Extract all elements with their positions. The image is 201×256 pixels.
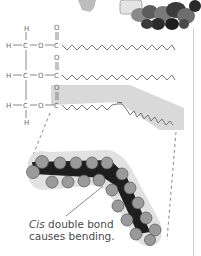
svg-text:C: C xyxy=(54,72,59,80)
svg-text:O: O xyxy=(38,42,44,50)
page-divider-rule xyxy=(193,28,194,256)
svg-text:O: O xyxy=(54,84,60,92)
arrow-graphic xyxy=(78,0,96,12)
svg-text:C: C xyxy=(23,72,28,80)
svg-text:H: H xyxy=(24,119,29,127)
glycerol-backbone xyxy=(13,32,58,118)
svg-text:C: C xyxy=(54,42,59,50)
olive-bowl-photo xyxy=(120,0,201,30)
caption-leader-line xyxy=(66,186,103,216)
svg-text:O: O xyxy=(38,102,44,110)
saturated-chain-1 xyxy=(62,45,175,50)
caption-line-2: causes bending. xyxy=(29,230,115,242)
svg-text:C: C xyxy=(54,102,59,110)
caption-line-1-rest: double bond xyxy=(45,218,114,230)
svg-text:C: C xyxy=(23,42,28,50)
figure-caption: Cis double bond causes bending. xyxy=(29,218,115,242)
svg-text:H: H xyxy=(6,102,11,110)
svg-text:H: H xyxy=(6,72,11,80)
svg-text:O: O xyxy=(38,72,44,80)
atom-labels: H HCOCO HCOCO HCOCO H xyxy=(6,24,60,127)
caption-italic-cis: Cis xyxy=(29,218,45,230)
svg-text:H: H xyxy=(24,25,29,33)
svg-text:H: H xyxy=(6,42,11,50)
shaded-unsaturated-band xyxy=(51,85,184,130)
svg-text:C: C xyxy=(23,102,28,110)
svg-text:O: O xyxy=(54,54,60,62)
svg-text:O: O xyxy=(54,24,60,32)
saturated-chain-2 xyxy=(62,75,175,80)
caption-line-1: Cis double bond xyxy=(29,218,115,230)
